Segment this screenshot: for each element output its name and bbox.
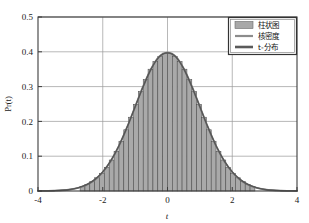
- distribution-plot: 00.10.20.30.40.5 -4-2024 t Pr(t) 柱状图核密度t…: [0, 0, 309, 223]
- chart-figure: 00.10.20.30.40.5 -4-2024 t Pr(t) 柱状图核密度t…: [0, 0, 309, 223]
- x-tick-label: 4: [295, 195, 300, 205]
- y-tick-label: 0.4: [22, 47, 34, 57]
- x-tick-label: -4: [34, 195, 42, 205]
- legend-item-label: 柱状图: [258, 20, 279, 30]
- legend-item-label: 核密度: [258, 31, 280, 41]
- legend-item-label: t-分布: [258, 42, 279, 52]
- y-axis-title: Pr(t): [3, 96, 13, 112]
- legend-items: 柱状图核密度t-分布: [235, 20, 280, 52]
- y-tick-label: 0: [29, 186, 34, 196]
- y-tick-label: 0.3: [22, 82, 34, 92]
- x-tick-label: -2: [99, 195, 107, 205]
- y-tick-label: 0.1: [22, 151, 33, 161]
- x-tick-label: 2: [230, 195, 235, 205]
- x-tick-label: 0: [165, 195, 170, 205]
- y-tick-label: 0.2: [22, 117, 33, 127]
- y-tick-label: 0.5: [22, 12, 34, 22]
- legend[interactable]: 柱状图核密度t-分布: [229, 18, 297, 55]
